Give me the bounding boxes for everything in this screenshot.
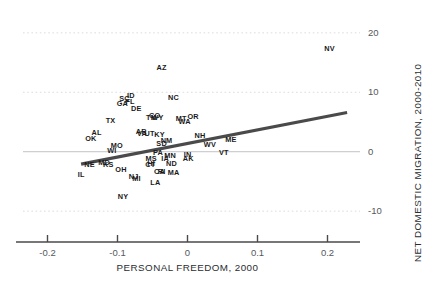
- data-point-label-de: DE: [131, 105, 142, 112]
- data-point-label-ga: GA: [117, 101, 128, 108]
- data-point-label-nd: ND: [166, 161, 177, 168]
- data-point-label-mi: MI: [132, 175, 141, 182]
- y-tick-label: 0: [368, 147, 373, 157]
- chart-canvas: [0, 0, 433, 285]
- data-point-label-me: ME: [225, 136, 236, 143]
- data-point-label-la: LA: [150, 180, 160, 187]
- data-point-label-ks: KS: [103, 162, 114, 169]
- scatter-plot-area: NVAZIDSCNCFLGADECOWYTNORMTWATXARVAUTKYAL…: [0, 0, 433, 285]
- y-axis-title: NET DOMESTIC MIGRATION, 2000-2010: [412, 64, 423, 263]
- y-tick-label: -10: [368, 206, 382, 216]
- data-point-label-vt: VT: [219, 150, 229, 157]
- data-point-label-nc: NC: [168, 95, 179, 102]
- data-point-label-hi: HI: [147, 160, 155, 167]
- chart-root: NVAZIDSCNCFLGADECOWYTNORMTWATXARVAUTKYAL…: [0, 0, 433, 285]
- x-tick-label: 0.2: [321, 248, 334, 258]
- data-point-label-ny: NY: [118, 193, 129, 200]
- data-point-label-ak: AK: [183, 156, 194, 163]
- x-tick-label: 0.1: [251, 248, 264, 258]
- data-point-label-ok: OK: [85, 135, 96, 142]
- x-axis-group: [16, 235, 360, 242]
- x-tick-label: 0: [185, 248, 190, 258]
- data-point-label-wi: WI: [107, 147, 116, 154]
- data-point-label-tn: TN: [146, 114, 156, 121]
- data-point-label-nh: NH: [195, 133, 206, 140]
- x-tick-label: -0.2: [39, 248, 55, 258]
- trendline-group: [81, 112, 347, 164]
- y-tick-label: 10: [368, 88, 379, 98]
- x-tick-label: -0.1: [109, 248, 125, 258]
- x-axis-title: PERSONAL FREEDOM, 2000: [117, 262, 259, 273]
- data-point-label-oh: OH: [115, 166, 126, 173]
- data-point-label-il: IL: [78, 172, 85, 179]
- data-point-label-tx: TX: [106, 117, 116, 124]
- data-point-label-nv: NV: [324, 45, 335, 52]
- y-tick-label: 20: [368, 28, 379, 38]
- data-point-label-ne: NE: [84, 162, 95, 169]
- data-point-label-sd: SD: [156, 140, 167, 147]
- data-point-label-ri: RI: [158, 168, 166, 175]
- regression-trendline: [81, 112, 347, 164]
- data-point-label-wa: WA: [179, 118, 191, 125]
- gridlines-group: [23, 33, 360, 211]
- data-point-label-wv: WV: [204, 141, 216, 148]
- data-point-label-az: AZ: [157, 64, 167, 71]
- data-point-label-ma: MA: [168, 169, 180, 176]
